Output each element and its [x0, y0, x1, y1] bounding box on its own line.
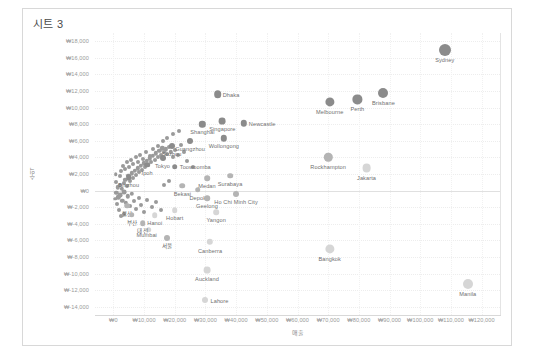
y-axis-tick-label: ₩10,000: [66, 105, 89, 111]
scatter-point-label: Bangkok: [318, 256, 340, 262]
scatter-point-label: 대전: [137, 227, 147, 235]
x-axis-tick-label: ₩100,000: [407, 317, 433, 323]
scatter-point[interactable]: [123, 167, 127, 171]
plot-area[interactable]: SydneyBrisbanePerthMelbourneRockhamptonJ…: [95, 33, 501, 315]
scatter-point[interactable]: [325, 97, 334, 106]
x-axis-tick-label: ₩110,000: [438, 317, 464, 323]
x-axis-tick-label: ₩0: [109, 317, 118, 323]
scatter-point[interactable]: [113, 197, 117, 201]
scatter-point[interactable]: [227, 173, 233, 179]
scatter-point[interactable]: [463, 279, 473, 289]
page-title: 시트 3: [33, 15, 63, 31]
scatter-point[interactable]: [159, 208, 163, 212]
scatter-point[interactable]: [151, 147, 155, 151]
y-axis-tick-label: ₩14,000: [66, 71, 89, 77]
screenshot-root: 시트 3 수익 ₩18,000₩16,000₩14,000₩12,000₩10,…: [0, 0, 534, 356]
scatter-point[interactable]: [152, 213, 158, 219]
worksheet-panel: 시트 3 수익 ₩18,000₩16,000₩14,000₩12,000₩10,…: [22, 8, 512, 346]
scatter-point[interactable]: [154, 200, 158, 204]
scatter-point[interactable]: [204, 175, 210, 181]
scatter-point[interactable]: [187, 138, 193, 144]
scatter-point[interactable]: [213, 209, 219, 215]
y-axis-tick-label: ₩4,000: [69, 154, 89, 160]
scatter-point[interactable]: [130, 192, 134, 196]
scatter-point[interactable]: [144, 162, 150, 168]
scatter-point[interactable]: [219, 118, 226, 125]
scatter-point-label: Newcastle: [249, 121, 276, 127]
scatter-point[interactable]: [134, 207, 138, 211]
scatter-point[interactable]: [141, 157, 145, 161]
scatter-point[interactable]: [233, 191, 239, 197]
scatter-point[interactable]: [167, 179, 171, 183]
scatter-point[interactable]: [139, 203, 143, 207]
scatter-point[interactable]: [362, 164, 371, 173]
scatter-point[interactable]: [129, 212, 135, 218]
gridline-vertical: [390, 33, 391, 315]
scatter-point[interactable]: [324, 153, 332, 161]
scatter-point-label: Dhaka: [223, 92, 240, 98]
scatter-point[interactable]: [140, 220, 146, 226]
scatter-point[interactable]: [172, 208, 178, 214]
scatter-point-label: Hanoi: [147, 220, 162, 226]
scatter-point[interactable]: [136, 160, 140, 164]
x-axis-tick-label: ₩70,000: [317, 317, 340, 323]
scatter-point[interactable]: [150, 205, 154, 209]
scatter-point[interactable]: [118, 174, 122, 178]
scatter-point[interactable]: [169, 143, 175, 149]
scatter-point[interactable]: [241, 120, 247, 126]
scatter-point[interactable]: [172, 164, 178, 170]
y-axis-tick-label: ₩6,000: [69, 138, 89, 144]
scatter-point[interactable]: [132, 199, 136, 203]
scatter-point[interactable]: [207, 239, 213, 245]
scatter-point[interactable]: [164, 235, 170, 241]
scatter-point[interactable]: [145, 198, 149, 202]
y-axis-tick-label: ₩-12,000: [64, 287, 89, 293]
scatter-point[interactable]: [171, 132, 175, 136]
scatter-point[interactable]: [137, 196, 141, 200]
y-axis-tick-label: ₩-10,000: [64, 271, 89, 277]
scatter-point[interactable]: [180, 183, 186, 189]
x-axis-tick-label: ₩30,000: [194, 317, 217, 323]
scatter-point[interactable]: [124, 203, 130, 209]
scatter-point[interactable]: [378, 88, 388, 98]
x-axis-tick-label: ₩40,000: [225, 317, 248, 323]
scatter-point-label: Ipoh: [142, 170, 153, 176]
scatter-point[interactable]: [131, 176, 135, 180]
gridline-vertical: [175, 33, 176, 315]
scatter-point[interactable]: [131, 162, 135, 166]
scatter-point[interactable]: [204, 267, 211, 274]
scatter-point-label: Sydney: [435, 57, 454, 63]
scatter-point[interactable]: [148, 154, 152, 158]
scatter-point[interactable]: [214, 91, 222, 99]
scatter-point[interactable]: [353, 95, 362, 104]
scatter-point[interactable]: [114, 180, 118, 184]
x-axis-tick-label: ₩60,000: [286, 317, 309, 323]
scatter-point[interactable]: [117, 208, 121, 212]
scatter-point-label: Canberra: [198, 248, 222, 254]
scatter-point[interactable]: [115, 202, 119, 206]
scatter-point[interactable]: [204, 195, 210, 201]
scatter-point-label: Auckland: [195, 276, 219, 282]
scatter-point[interactable]: [156, 144, 160, 148]
scatter-point[interactable]: [325, 244, 334, 253]
scatter-point[interactable]: [126, 175, 132, 181]
scatter-point[interactable]: [161, 139, 165, 143]
scatter-point[interactable]: [177, 129, 181, 133]
scatter-point[interactable]: [439, 44, 451, 56]
scatter-point[interactable]: [185, 159, 189, 163]
scatter-point[interactable]: [162, 183, 166, 187]
gridline-vertical: [359, 33, 360, 315]
scatter-point-label: 부산: [127, 219, 137, 227]
x-axis-tick-label: ₩120,000: [468, 317, 494, 323]
scatter-point-label: Perth: [350, 106, 364, 112]
scatter-point[interactable]: [142, 210, 146, 214]
scatter-point[interactable]: [160, 155, 166, 161]
scatter-point[interactable]: [202, 297, 208, 303]
x-axis-tick-label: ₩10,000: [133, 317, 156, 323]
y-axis-tick-label: ₩0: [80, 188, 89, 194]
scatter-point[interactable]: [114, 172, 118, 176]
x-axis-tick-label: ₩20,000: [163, 317, 186, 323]
scatter-point-label: Yangon: [206, 217, 225, 223]
scatter-point[interactable]: [165, 136, 169, 140]
scatter-point-label: Surabaya: [218, 181, 243, 187]
